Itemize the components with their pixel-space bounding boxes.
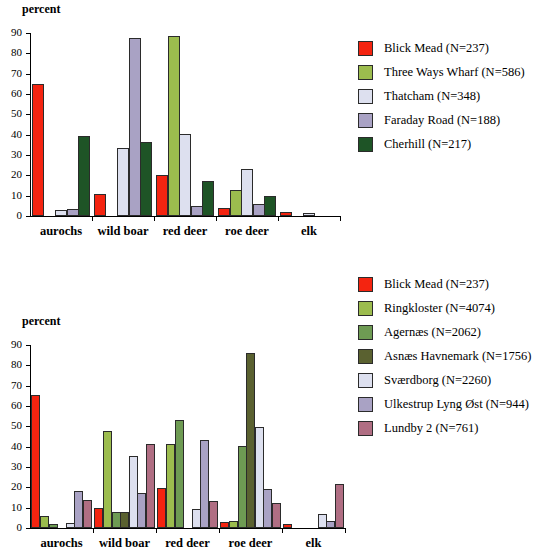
- legend-label: Cherhill (N=217): [384, 137, 471, 152]
- legend-color-swatch: [358, 349, 373, 364]
- x-axis-line: [30, 528, 345, 529]
- y-tick-mark: [26, 74, 30, 75]
- y-tick-label: 30: [2, 148, 22, 160]
- legend-item: Blick Mead (N=237): [358, 36, 525, 60]
- bar: [246, 353, 255, 528]
- legend-color-swatch: [358, 89, 373, 104]
- x-tick-mark: [93, 528, 94, 533]
- bar: [283, 524, 292, 528]
- bar: [78, 136, 90, 216]
- y-tick-label: 70: [2, 67, 22, 79]
- legend-color-swatch: [358, 41, 373, 56]
- bar: [326, 521, 335, 528]
- y-tick-label: 40: [2, 128, 22, 140]
- bar: [175, 420, 184, 528]
- y-tick-mark: [26, 386, 30, 387]
- legend-label: Lundby 2 (N=761): [384, 421, 479, 436]
- plot-area-bottom: 0102030405060708090aurochswild boarred d…: [30, 345, 345, 528]
- legend-label: Ulkestrup Lyng Øst (N=944): [384, 397, 529, 412]
- x-tick-mark: [154, 216, 155, 221]
- bar: [229, 521, 238, 528]
- legend-label: Ringkloster (N=4074): [384, 301, 495, 316]
- legend-item: Three Ways Wharf (N=586): [358, 60, 525, 84]
- bar: [103, 431, 112, 528]
- y-tick-mark: [26, 196, 30, 197]
- legend-item: Ulkestrup Lyng Øst (N=944): [358, 392, 531, 416]
- bar: [220, 522, 229, 528]
- legend-item: Asnæs Havnemark (N=1756): [358, 344, 531, 368]
- x-axis-category-label: wild boar: [93, 536, 156, 551]
- bar: [179, 134, 191, 216]
- bar: [74, 491, 83, 528]
- x-tick-mark: [216, 216, 217, 221]
- bar: [157, 488, 166, 528]
- legend-item: Faraday Road (N=188): [358, 108, 525, 132]
- bar: [120, 512, 129, 528]
- bar: [264, 196, 276, 216]
- legend-label: Asnæs Havnemark (N=1756): [384, 349, 531, 364]
- x-axis-category-label: roe deer: [219, 536, 282, 551]
- x-axis-line: [30, 216, 340, 217]
- legend-color-swatch: [358, 325, 373, 340]
- y-tick-mark: [26, 508, 30, 509]
- bar: [166, 444, 175, 528]
- y-tick-label: 60: [2, 399, 22, 411]
- y-tick-label: 50: [2, 107, 22, 119]
- y-tick-mark: [26, 114, 30, 115]
- y-tick-mark: [26, 94, 30, 95]
- plot-area-top: 0102030405060708090aurochswild boarred d…: [30, 33, 340, 216]
- bar: [83, 500, 92, 528]
- bar: [32, 84, 44, 216]
- legend-label: Sværdborg (N=2260): [384, 373, 491, 388]
- y-axis-line: [30, 33, 31, 216]
- bar: [263, 489, 272, 528]
- x-tick-mark: [219, 528, 220, 533]
- y-tick-label: 20: [2, 168, 22, 180]
- chart-bottom: percent 0102030405060708090aurochswild b…: [0, 300, 556, 558]
- y-tick-label: 50: [2, 419, 22, 431]
- bar: [241, 169, 253, 216]
- legend-label: Three Ways Wharf (N=586): [384, 65, 525, 80]
- y-tick-mark: [26, 175, 30, 176]
- bar: [137, 493, 146, 528]
- bar: [272, 503, 281, 528]
- legend-label: Agernæs (N=2062): [384, 325, 481, 340]
- legend-color-swatch: [358, 113, 373, 128]
- bar: [209, 501, 218, 528]
- x-axis-category-label: aurochs: [30, 536, 93, 551]
- y-tick-label: 0: [2, 209, 22, 221]
- bar: [94, 508, 103, 528]
- bar: [202, 181, 214, 216]
- legend-label: Blick Mead (N=237): [384, 41, 489, 56]
- legend-item: Lundby 2 (N=761): [358, 416, 531, 440]
- y-tick-label: 70: [2, 379, 22, 391]
- y-tick-mark: [26, 406, 30, 407]
- bar: [55, 210, 67, 216]
- x-axis-category-label: elk: [282, 536, 345, 551]
- legend-bottom: Blick Mead (N=237)Ringkloster (N=4074)Ag…: [358, 272, 531, 440]
- legend-color-swatch: [358, 301, 373, 316]
- y-tick-label: 30: [2, 460, 22, 472]
- y-tick-mark: [26, 155, 30, 156]
- x-axis-category-label: wild boar: [92, 224, 154, 239]
- legend-label: Faraday Road (N=188): [384, 113, 500, 128]
- y-tick-label: 90: [2, 338, 22, 350]
- bar: [156, 175, 168, 216]
- y-tick-label: 60: [2, 87, 22, 99]
- legend-color-swatch: [358, 373, 373, 388]
- y-tick-mark: [26, 345, 30, 346]
- bar: [49, 524, 58, 528]
- x-tick-mark: [340, 216, 341, 221]
- legend-color-swatch: [358, 397, 373, 412]
- y-tick-mark: [26, 447, 30, 448]
- bar: [200, 440, 209, 528]
- legend-top: Blick Mead (N=237)Three Ways Wharf (N=58…: [358, 36, 525, 156]
- y-tick-label: 0: [2, 521, 22, 533]
- bar: [140, 142, 152, 216]
- y-axis-title-bottom: percent: [22, 314, 60, 329]
- y-tick-label: 40: [2, 440, 22, 452]
- legend-item: Sværdborg (N=2260): [358, 368, 531, 392]
- bar: [280, 212, 292, 216]
- bar: [40, 516, 49, 528]
- chart-top: percent 0102030405060708090aurochswild b…: [0, 0, 556, 258]
